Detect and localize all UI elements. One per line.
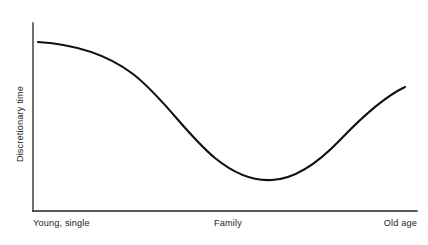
y-axis-title: Discretionary time bbox=[15, 86, 25, 162]
chart-figure: Young, single Family Old age Discretiona… bbox=[0, 0, 428, 245]
x-axis-tick-label-family: Family bbox=[214, 218, 242, 229]
x-axis-tick-label-old-age: Old age bbox=[384, 218, 417, 229]
discretionary-time-curve bbox=[38, 42, 405, 180]
x-axis-tick-label-young-single: Young, single bbox=[33, 218, 90, 229]
line-chart-plot bbox=[0, 0, 428, 245]
